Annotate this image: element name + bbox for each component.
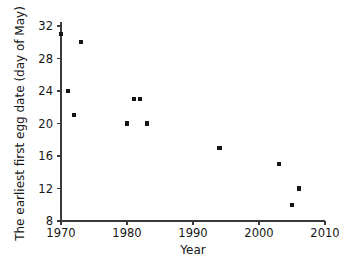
plot-canvas: 8121620242832 19701980199020002010 Year … [0,0,360,264]
data-point [297,186,301,190]
data-point [59,32,63,36]
y-tick-label: 16 [38,149,53,163]
y-tick-label: 12 [38,182,53,196]
y-tick-label: 32 [38,19,53,33]
data-point [217,146,221,150]
x-tick-label: 2010 [310,226,339,240]
data-point [125,121,129,125]
y-axis-title: The earliest first egg date (day of May) [13,6,27,242]
y-tick-label: 28 [38,52,53,66]
data-point [66,89,70,93]
x-tick-label: 1990 [178,226,207,240]
data-point [277,162,281,166]
data-point [145,121,149,125]
data-point [79,40,83,44]
y-tick-label: 20 [38,117,53,131]
data-point [132,97,136,101]
x-tick-label: 1980 [112,226,141,240]
x-tick-label: 1970 [46,226,75,240]
data-point-markers [59,32,301,207]
data-point [290,203,294,207]
y-tick-label: 24 [38,84,53,98]
data-point [138,97,142,101]
scatter-plot-figure: 8121620242832 19701980199020002010 Year … [0,0,360,264]
data-point [72,113,76,117]
x-axis-title: Year [179,243,205,257]
y-axis-ticks: 8121620242832 [38,19,61,228]
x-axis-ticks: 19701980199020002010 [46,221,339,240]
x-tick-label: 2000 [244,226,273,240]
